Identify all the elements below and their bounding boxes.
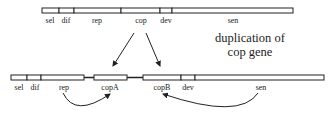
arrow-to-copB	[146, 33, 160, 66]
top-segment-cop	[121, 8, 160, 13]
bottom-label-dif: dif	[31, 83, 40, 92]
top-label-rep: rep	[92, 16, 102, 25]
top-label-sel: sel	[46, 16, 56, 25]
bottom-segment-sen	[195, 75, 324, 80]
top-segment-dev	[160, 8, 172, 13]
bottom-segment-dif	[27, 75, 41, 80]
top-label-sen: sen	[228, 16, 239, 25]
arrow-to-copA	[113, 33, 134, 66]
bottom-segment-dev	[181, 75, 195, 80]
bottom-label-copB: copB	[154, 83, 171, 92]
bottom-label-rep: rep	[59, 83, 69, 92]
top-genome	[42, 8, 293, 13]
top-label-dev: dev	[160, 16, 172, 25]
bottom-label-sen: sen	[256, 83, 267, 92]
bottom-segment-rep	[41, 75, 84, 80]
top-label-cop: cop	[135, 16, 147, 25]
gene-duplication-diagram: sel dif rep cop dev sen duplication of c…	[0, 0, 334, 117]
bottom-label-dev: dev	[182, 83, 194, 92]
top-segment-rep	[74, 8, 121, 13]
bottom-label-sel: sel	[15, 83, 25, 92]
arc-rep-to-copA	[63, 93, 110, 106]
top-segment-sel	[42, 8, 59, 13]
caption-line-1: duplication of	[215, 31, 286, 45]
bottom-segment-sel	[11, 75, 27, 80]
bottom-segment-copA	[94, 75, 127, 80]
bottom-genome	[11, 75, 324, 80]
top-label-dif: dif	[62, 16, 71, 25]
bottom-label-copA: copA	[101, 83, 119, 92]
top-labels: sel dif rep cop dev sen	[46, 16, 239, 25]
top-segment-dif	[59, 8, 74, 13]
arc-sen-to-copB	[163, 93, 258, 107]
top-segment-sen	[172, 8, 293, 13]
bottom-labels: sel dif rep copA copB dev sen	[15, 83, 267, 92]
bottom-segment-copB	[143, 75, 181, 80]
caption-line-2: cop gene	[228, 45, 273, 59]
